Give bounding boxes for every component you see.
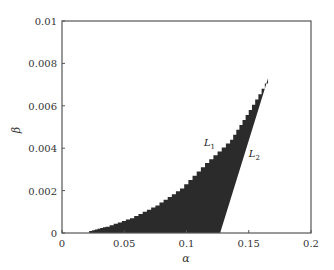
x-tick-label: 0.05 [113, 238, 135, 249]
region-chart: 00.050.10.150.200.0020.0040.0060.0080.01… [0, 0, 334, 270]
x-tick-label: 0 [59, 238, 65, 249]
y-tick-label: 0.006 [28, 101, 57, 112]
shaded-area [89, 78, 268, 233]
y-tick-label: 0.008 [28, 58, 57, 69]
x-tick-label: 0.2 [303, 238, 319, 249]
y-tick-label: 0.01 [35, 16, 57, 27]
shaded-region [89, 78, 268, 233]
x-axis-label: α [182, 252, 190, 265]
y-tick-label: 0.002 [28, 186, 57, 197]
x-tick-label: 0.1 [179, 238, 195, 249]
y-axis-label: β [10, 127, 23, 134]
y-tick-label: 0.004 [28, 143, 57, 154]
x-tick-label: 0.15 [238, 238, 260, 249]
y-tick-label: 0 [51, 228, 57, 239]
curve-label-L2: L2 [248, 148, 260, 162]
curve-label-L1: L1 [203, 137, 215, 151]
